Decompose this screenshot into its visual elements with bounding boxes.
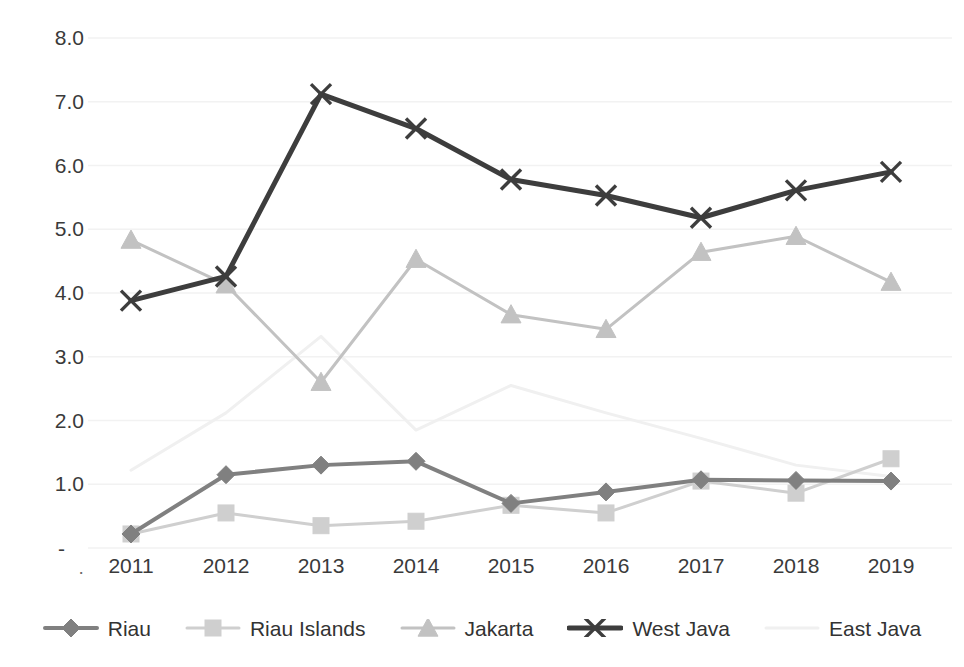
x-axis-tick-label: 2018 — [746, 555, 846, 576]
x-axis-tick-label: 2019 — [841, 555, 941, 576]
series-line — [131, 94, 891, 301]
legend-item-east-java[interactable]: East Java — [764, 618, 921, 639]
data-point-marker-diamond — [407, 452, 425, 470]
y-axis-tick-label: 3.0 — [55, 346, 84, 367]
legend-item-jakarta[interactable]: Jakarta — [400, 618, 534, 639]
x-axis-tick-label: 2014 — [366, 555, 466, 576]
data-point-marker-triangle — [121, 230, 141, 248]
data-point-marker-diamond — [597, 483, 615, 501]
y-axis-tick-label: 5.0 — [55, 218, 84, 239]
legend-item-label: Jakarta — [465, 618, 534, 639]
legend-marker-triangle-icon — [400, 619, 456, 637]
y-axis: 8.07.06.05.04.03.02.01.0 — [0, 0, 84, 580]
data-point-marker-triangle — [501, 305, 521, 323]
x-axis: 201120122013201420152016201720182019 — [0, 555, 964, 595]
legend-marker-x-icon — [567, 619, 623, 637]
legend-item-label: West Java — [632, 618, 730, 639]
legend-marker-none-icon — [764, 619, 820, 637]
y-axis-tick-label: 1.0 — [55, 473, 84, 494]
data-point-marker-triangle — [881, 272, 901, 290]
x-axis-tick-label: 2013 — [271, 555, 371, 576]
y-axis-tick-label: 8.0 — [55, 27, 84, 48]
legend-item-label: Riau — [108, 618, 151, 639]
y-axis-tick-label: 2.0 — [55, 410, 84, 431]
legend-item-west-java[interactable]: West Java — [567, 618, 730, 639]
x-axis-tick-label: 2012 — [176, 555, 276, 576]
legend-item-riau-islands[interactable]: Riau Islands — [185, 618, 366, 639]
data-point-marker-triangle — [406, 249, 426, 267]
x-axis-tick-label: 2017 — [651, 555, 751, 576]
x-axis-tick-label: 2015 — [461, 555, 561, 576]
data-point-marker-diamond — [62, 619, 80, 637]
series-riau — [122, 452, 900, 543]
data-point-marker-diamond — [217, 466, 235, 484]
y-axis-tick-label: 7.0 — [55, 91, 84, 112]
data-point-marker-square — [883, 451, 899, 467]
chart-legend: RiauRiau IslandsJakartaWest JavaEast Jav… — [0, 604, 964, 652]
y-axis-tick-label: 6.0 — [55, 155, 84, 176]
series-west-java — [121, 84, 901, 311]
data-point-marker-square — [218, 505, 234, 521]
legend-item-label: Riau Islands — [250, 618, 366, 639]
y-axis-tick-label: 4.0 — [55, 282, 84, 303]
x-axis-tick-label: 2011 — [81, 555, 181, 576]
legend-marker-square-icon — [185, 619, 241, 637]
legend-item-label: East Java — [829, 618, 921, 639]
x-axis-tick-label: 2016 — [556, 555, 656, 576]
data-point-marker-diamond — [312, 456, 330, 474]
data-point-marker-square — [408, 513, 424, 529]
legend-item-riau[interactable]: Riau — [43, 618, 151, 639]
legend-marker-diamond-icon — [43, 619, 99, 637]
data-point-marker-square — [598, 505, 614, 521]
data-point-marker-square — [313, 518, 329, 534]
line-chart: 8.07.06.05.04.03.02.01.0 - · 20112012201… — [0, 0, 964, 667]
data-point-marker-square — [205, 620, 221, 636]
